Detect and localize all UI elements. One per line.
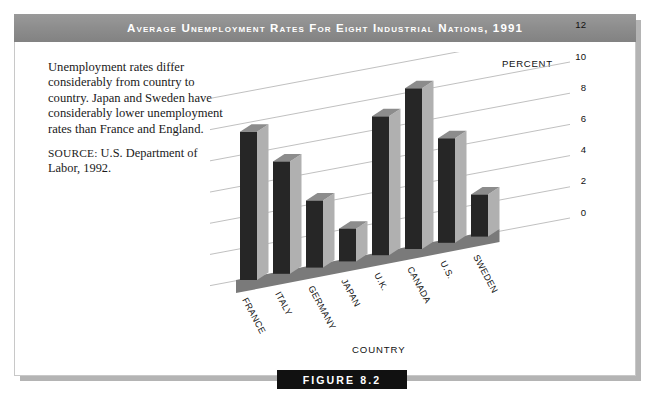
source-line: SOURCE: U.S. Department of Labor, 1992. bbox=[48, 146, 223, 176]
bar-japan bbox=[339, 221, 368, 261]
bars bbox=[240, 81, 500, 280]
bar-germany bbox=[306, 193, 335, 268]
chart-plot-area bbox=[210, 52, 600, 302]
bar-canada bbox=[405, 81, 434, 249]
y-tick-label: 12 bbox=[570, 19, 586, 30]
bar-italy bbox=[273, 154, 302, 274]
y-tick-label: 10 bbox=[570, 51, 586, 62]
bar-france bbox=[240, 124, 269, 280]
y-tick-label: 6 bbox=[570, 113, 586, 124]
page-title: Average Unemployment Rates for Eight Ind… bbox=[127, 22, 523, 34]
bar-u-k bbox=[372, 109, 401, 255]
bar-sweden bbox=[471, 187, 500, 237]
y-tick-label: 8 bbox=[570, 82, 586, 93]
caption-block: Unemployment rates differ considerably f… bbox=[48, 60, 223, 176]
figure-page: Average Unemployment Rates for Eight Ind… bbox=[0, 0, 664, 404]
x-axis-title: COUNTRY bbox=[352, 344, 406, 355]
figure-tag-label: FIGURE 8.2 bbox=[303, 374, 382, 386]
title-banner: Average Unemployment Rates for Eight Ind… bbox=[14, 14, 636, 42]
y-tick-label: 4 bbox=[570, 144, 586, 155]
bar-u-s bbox=[438, 131, 467, 243]
bar-chart-3d bbox=[210, 52, 600, 302]
card-shadow-right bbox=[636, 20, 641, 380]
y-tick-label: 0 bbox=[570, 207, 586, 218]
caption-body: Unemployment rates differ considerably f… bbox=[48, 60, 223, 137]
source-label: SOURCE: bbox=[48, 147, 98, 159]
y-tick-label: 2 bbox=[570, 175, 586, 186]
figure-tag: FIGURE 8.2 bbox=[277, 370, 407, 389]
